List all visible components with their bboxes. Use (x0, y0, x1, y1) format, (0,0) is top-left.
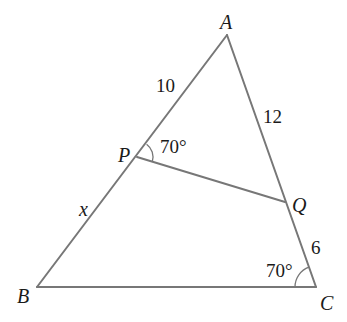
edge-ac (227, 35, 316, 287)
vertex-label-b: B (17, 285, 29, 307)
angle-label-p: 70° (160, 136, 187, 157)
vertex-label-q: Q (292, 194, 307, 216)
triangle-diagram: A P Q B C 10 12 x 6 70° 70° (0, 0, 347, 322)
vertex-label-c: C (320, 292, 334, 314)
edge-ab (37, 35, 227, 287)
length-label-pb: x (78, 198, 88, 220)
angle-label-c: 70° (266, 260, 293, 281)
length-label-ap: 10 (156, 75, 175, 96)
edge-pq (137, 157, 285, 202)
vertex-label-a: A (218, 11, 233, 33)
length-label-qc: 6 (311, 237, 321, 258)
angle-arc-c (295, 267, 309, 287)
length-label-aq: 12 (263, 106, 282, 127)
vertex-label-p: P (117, 144, 130, 166)
angle-arc-p (147, 144, 153, 162)
